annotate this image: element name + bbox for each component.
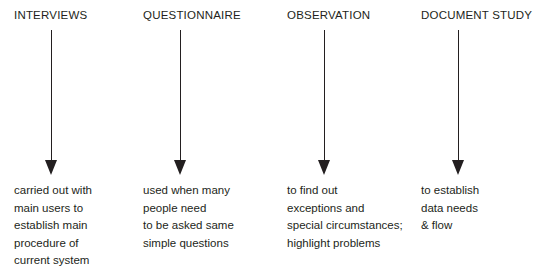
column-body-line: to establish (421, 182, 543, 200)
down-arrow-icon-document-study (452, 30, 465, 175)
arrow-shaft (324, 30, 325, 163)
column-body-line: used when many (143, 182, 265, 200)
arrow-head (45, 160, 57, 175)
column-body-line: establish main (14, 217, 136, 235)
down-arrow-icon-observation (318, 30, 331, 175)
column-body-line: people need (143, 200, 265, 218)
column-body-line: carried out with (14, 182, 136, 200)
down-arrow-icon-questionnaire (174, 30, 187, 175)
arrow-head (174, 160, 186, 175)
arrow-shaft (180, 30, 181, 163)
diagram-column-document-study: DOCUMENT STUDY to establish data needs &… (421, 0, 543, 269)
arrow-head (318, 160, 330, 175)
column-body-observation: to find out exceptions and special circu… (287, 182, 409, 252)
column-body-line: to find out (287, 182, 409, 200)
column-body-document-study: to establish data needs & flow (421, 182, 543, 235)
arrow-shaft (51, 30, 52, 163)
column-title-interviews: INTERVIEWS (14, 8, 87, 22)
arrow-head (452, 160, 464, 175)
column-body-line: special circumstances; (287, 217, 409, 235)
column-body-interviews: carried out with main users to establish… (14, 182, 136, 269)
column-body-line: to be asked same (143, 217, 265, 235)
column-body-line: current system (14, 252, 136, 269)
column-title-document-study: DOCUMENT STUDY (421, 8, 532, 22)
column-body-line: highlight problems (287, 235, 409, 253)
column-body-line: data needs (421, 200, 543, 218)
diagram-column-questionnaire: QUESTIONNAIRE used when many people need… (143, 0, 271, 269)
column-body-line: main users to (14, 200, 136, 218)
column-title-questionnaire: QUESTIONNAIRE (143, 8, 241, 22)
diagram-column-observation: OBSERVATION to find out exceptions and s… (287, 0, 415, 269)
column-body-line: simple questions (143, 235, 265, 253)
column-body-line: procedure of (14, 235, 136, 253)
column-title-observation: OBSERVATION (287, 8, 370, 22)
down-arrow-icon-interviews (45, 30, 58, 175)
column-body-line: exceptions and (287, 200, 409, 218)
column-body-line: & flow (421, 217, 543, 235)
column-body-questionnaire: used when many people need to be asked s… (143, 182, 265, 252)
diagram-canvas: INTERVIEWS carried out with main users t… (0, 0, 543, 269)
arrow-shaft (458, 30, 459, 163)
diagram-column-interviews: INTERVIEWS carried out with main users t… (14, 0, 142, 269)
